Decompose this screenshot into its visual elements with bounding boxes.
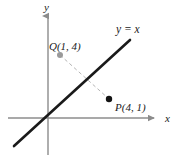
coordinate-plane-svg: y x y = x Q(1, 4) P(4, 1) bbox=[0, 0, 177, 161]
line-y-equals-x-label: y = x bbox=[115, 23, 141, 36]
point-q-marker bbox=[57, 52, 63, 58]
point-q-label: Q(1, 4) bbox=[49, 40, 81, 53]
point-p-label: P(4, 1) bbox=[114, 101, 146, 114]
y-axis-label: y bbox=[43, 1, 49, 13]
point-p-marker bbox=[106, 96, 112, 102]
graph-figure: y x y = x Q(1, 4) P(4, 1) bbox=[0, 0, 177, 161]
x-axis-label: x bbox=[164, 112, 170, 124]
